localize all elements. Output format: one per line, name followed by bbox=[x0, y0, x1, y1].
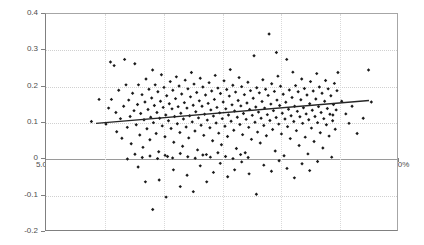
y-axis-tick-label: 0.1 bbox=[2, 118, 38, 126]
y-axis-tick-label: -0.2 bbox=[2, 227, 38, 235]
plot-area bbox=[45, 13, 398, 231]
y-axis-tick-mark bbox=[41, 231, 45, 232]
y-axis-tick-label: -0.1 bbox=[2, 191, 38, 199]
y-axis-tick-label: 0.2 bbox=[2, 82, 38, 90]
trendline bbox=[96, 100, 369, 123]
y-axis-tick-label: 0.4 bbox=[2, 9, 38, 17]
y-axis-tick-label: 0.3 bbox=[2, 45, 38, 53]
scatter-chart: 0.40.30.20.10-0.1-0.2 5.0%10.0%15.0%20.0… bbox=[0, 0, 424, 245]
trendline-layer bbox=[46, 14, 399, 232]
